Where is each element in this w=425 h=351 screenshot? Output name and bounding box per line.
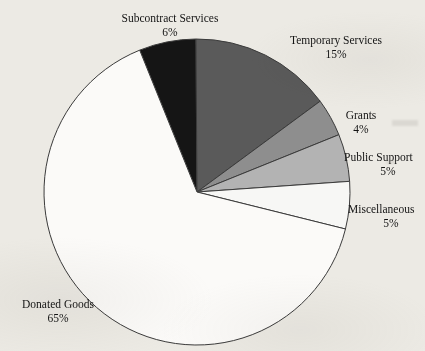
slice-label-percent: 6% <box>106 25 234 39</box>
slice-label-percent: 15% <box>268 47 404 61</box>
slice-label-name: Public Support <box>344 150 425 164</box>
slice-label-grants: Grants 4% <box>330 108 392 136</box>
slice-label-public-support: Public Support 5% <box>344 150 425 178</box>
pie-chart-figure: REVENUE BY PROGRAM SERVICE Subcontract S… <box>0 0 425 351</box>
slice-label-percent: 4% <box>330 122 392 136</box>
slice-label-percent: 5% <box>348 216 425 230</box>
slice-label-miscellaneous: Miscellaneous 5% <box>348 202 425 230</box>
slice-label-donated-goods: Donated Goods 65% <box>6 297 110 325</box>
slice-label-name: Miscellaneous <box>348 202 425 216</box>
slice-label-percent: 5% <box>344 164 425 178</box>
slice-label-percent: 65% <box>6 311 110 325</box>
slice-label-name: Donated Goods <box>6 297 110 311</box>
slice-label-name: Grants <box>330 108 392 122</box>
slice-label-subcontract-services: Subcontract Services 6% <box>106 11 234 39</box>
slice-label-name: Temporary Services <box>268 33 404 47</box>
slice-label-temporary-services: Temporary Services 15% <box>268 33 404 61</box>
slice-label-name: Subcontract Services <box>106 11 234 25</box>
